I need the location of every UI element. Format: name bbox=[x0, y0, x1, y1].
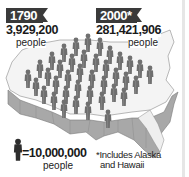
year-badge-1790: 1790 bbox=[6, 8, 43, 23]
people-label-2000: people bbox=[128, 37, 158, 48]
footnote-line-2: and Hawaii bbox=[100, 160, 144, 170]
year-badge-2000: 2000* bbox=[96, 8, 137, 23]
people-label-1790: people bbox=[16, 37, 46, 48]
population-1790: 3,929,200 bbox=[6, 24, 58, 37]
infographic-panel: 1790 3,929,200 people 2000* 281,421,906 … bbox=[0, 0, 182, 177]
legend-value: =10,000,000 bbox=[22, 147, 86, 160]
population-2000: 281,421,906 bbox=[96, 24, 161, 37]
right-border bbox=[182, 0, 185, 177]
legend-unit: people bbox=[43, 160, 73, 171]
